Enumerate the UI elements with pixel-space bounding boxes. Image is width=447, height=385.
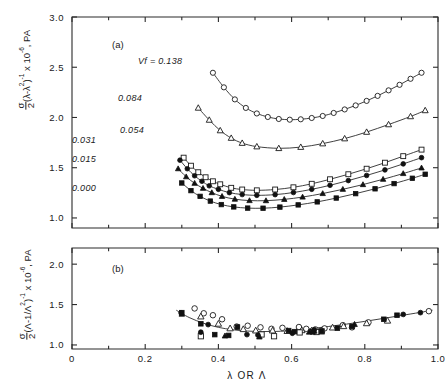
panel-b-ylabel-expr: (Λ-1/Λ [22,306,33,333]
data-marker [255,193,260,198]
figure-root: 00.20.40.60.81.0λ OR Λ1.01.52.02.53.01.0… [0,0,447,385]
data-marker [397,82,402,87]
panel-b-ylabel-denom: 2 [27,333,37,340]
data-marker [216,187,221,192]
data-marker [334,196,338,200]
panel-a-data [175,70,428,210]
data-marker [261,206,265,210]
data-marker [206,322,211,327]
data-marker [200,179,205,184]
data-marker [315,200,319,204]
data-marker [200,185,205,190]
data-marker [382,317,387,322]
data-marker [287,117,292,122]
data-marker [298,117,303,122]
panel-b-y-ticks: 1.01.52.0 [49,259,438,351]
x-axis-title: λ OR Λ [227,370,266,381]
data-marker [219,317,225,323]
x-tick-label: 1.0 [431,353,446,364]
panel-b-y-tick-label: 2.0 [49,259,64,270]
data-marker [364,98,369,103]
data-marker [353,103,358,108]
panel-a-ylabel-unit: , PA [21,30,32,47]
data-marker [353,191,357,195]
data-marker [419,165,424,170]
data-marker [328,177,333,182]
panel-b-ylabel-unit: , PA [22,249,33,266]
data-marker [235,325,240,330]
panel-b-ylabel-sup2: -1 [19,293,26,299]
panel-a-ylabel-paren: ) [21,79,32,82]
panel-b-y-tick-label: 1.0 [49,339,64,350]
data-marker [232,97,237,102]
panel-a-ylabel-expr: (λ-λ [21,86,32,102]
data-marker [309,187,314,192]
data-marker [175,166,180,171]
data-marker [185,166,190,171]
panel-b-ylabel-sup1: 2 [19,302,26,306]
data-marker [208,199,212,203]
data-marker [383,168,388,173]
x-tick-label: 0.2 [138,353,153,364]
data-marker [245,206,249,210]
panel-a-y-tick-label: 2.5 [49,62,64,73]
panel-a-y-tick-label: 1.5 [49,162,64,173]
data-marker [192,173,197,178]
data-marker [311,330,316,335]
x-tick-label: 0.8 [357,353,372,364]
data-marker [229,185,234,190]
panel-b-frame [72,248,438,349]
panel-a-ylabel-sup2: -1 [18,74,25,80]
data-marker [328,183,333,188]
data-marker [210,312,216,318]
data-marker [280,325,286,331]
data-marker [375,93,380,98]
data-marker [189,188,193,192]
data-marker [254,188,259,193]
data-marker [232,205,236,209]
scientific-figure: 00.20.40.60.81.0λ OR Λ1.01.52.02.53.01.0… [0,0,447,385]
data-marker [319,329,324,334]
data-marker [364,166,369,171]
data-marker [226,333,231,338]
data-marker [419,70,424,75]
data-marker [291,190,296,195]
data-marker [297,330,302,335]
data-marker [198,330,203,335]
data-marker [346,178,351,183]
data-marker [401,162,406,167]
x-tick-label: 0.6 [284,353,299,364]
data-marker [286,328,291,333]
panel-b-data [176,306,432,339]
data-marker [210,70,215,75]
data-marker [245,332,250,337]
data-marker [422,107,428,112]
data-marker [309,181,314,186]
data-marker [395,313,400,318]
data-marker [296,203,300,207]
panel-b-ylabel-paren: ) [22,299,33,302]
data-marker [221,85,226,90]
panel-a-ylabel: σ 2 (λ-λ2)-1 x 10-6, PA [16,0,35,140]
data-marker [426,308,432,314]
data-marker [192,306,198,312]
series-line [213,73,422,120]
data-marker [386,88,391,93]
data-marker [419,155,424,160]
data-marker [309,115,314,120]
data-marker [418,310,423,315]
data-marker [373,187,377,191]
series-annotation: 0.084 [118,93,142,103]
series-line [178,168,421,201]
panel-b-label: (b) [112,263,124,274]
data-marker [342,107,347,112]
panel-a-ylabel-sup3: -6 [18,47,25,53]
data-marker [243,105,248,110]
data-marker [180,181,184,185]
data-marker [419,147,424,152]
data-marker [228,135,234,140]
series-annotation: 0.000 [72,183,96,193]
data-marker [192,180,197,185]
data-marker [210,179,215,184]
data-marker [271,334,276,339]
